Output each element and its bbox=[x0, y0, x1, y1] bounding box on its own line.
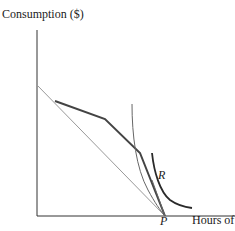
budget-line bbox=[37, 85, 165, 216]
diagram-canvas bbox=[0, 0, 235, 231]
point-p-label: P bbox=[160, 214, 167, 229]
curve-r-label: R bbox=[158, 168, 165, 183]
y-axis-label: Consumption ($) bbox=[2, 7, 84, 22]
curve-to-p-segment bbox=[152, 180, 165, 216]
x-axis-label: Hours of bbox=[192, 213, 234, 228]
